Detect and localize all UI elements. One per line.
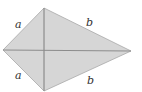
side-label-top-left: a xyxy=(15,19,22,30)
side-label-bottom-right: b xyxy=(87,75,94,86)
side-label-top-right: b xyxy=(86,17,93,28)
kite-shape xyxy=(3,8,131,91)
side-label-bottom-left: a xyxy=(15,70,22,81)
